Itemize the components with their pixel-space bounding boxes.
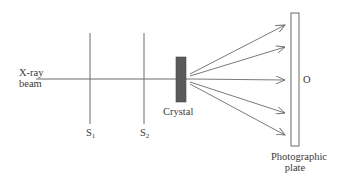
point-o-label: O xyxy=(303,74,311,85)
beam-label-line1: X-ray xyxy=(19,67,44,78)
diffracted-ray-3 xyxy=(190,79,285,80)
photographic-plate xyxy=(291,13,299,146)
plate-label-line2: plate xyxy=(271,162,319,173)
plate-label: Photographic plate xyxy=(271,151,319,173)
crystal-block xyxy=(176,57,186,102)
xray-diffraction-diagram: X-ray beam S1 S2 Crystal O Photographic … xyxy=(0,0,341,182)
diffracted-ray-4 xyxy=(190,82,285,113)
diffracted-ray-2 xyxy=(190,47,285,76)
slit-s1-label: S1 xyxy=(86,127,95,142)
crystal-label: Crystal xyxy=(163,106,193,117)
plate-label-line1: Photographic xyxy=(271,151,319,162)
slit-s2-label: S2 xyxy=(140,127,149,142)
diffracted-ray-5 xyxy=(190,84,285,135)
beam-label-line2: beam xyxy=(19,78,44,89)
beam-label: X-ray beam xyxy=(19,67,44,89)
diffracted-ray-1 xyxy=(190,25,285,74)
